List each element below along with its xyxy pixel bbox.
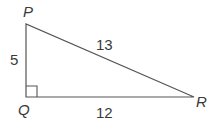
triangle-pqr [26,24,194,97]
vertex-label-p: P [23,3,33,20]
vertex-label-r: R [196,93,207,110]
side-label-pr: 13 [96,36,113,53]
vertex-label-q: Q [18,101,30,118]
triangle-diagram: P Q R 5 13 12 [0,0,216,125]
side-label-qr: 12 [96,104,113,121]
side-label-pq: 5 [10,51,18,68]
right-angle-marker [26,86,37,97]
